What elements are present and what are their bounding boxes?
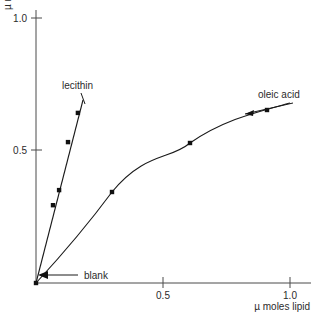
oleic-acid-annotation-label: oleic acid bbox=[258, 89, 300, 100]
y-tick-label-0.5: 0.5 bbox=[13, 145, 27, 156]
oleic-acid-point-2 bbox=[188, 141, 192, 145]
lecithin-leader-line bbox=[81, 93, 85, 104]
x-axis-title: µ moles lipid bbox=[254, 301, 310, 312]
lecithin-annotation-label: lecithin bbox=[62, 80, 93, 91]
y-axis-title: µ moles Mn bound bbox=[2, 0, 13, 10]
lecithin-point-2 bbox=[57, 188, 61, 192]
lecithin-point-3 bbox=[66, 140, 70, 144]
y-tick-label-1.0: 1.0 bbox=[13, 13, 27, 24]
oleic-acid-point-1 bbox=[110, 190, 114, 194]
x-tick-label-0.5: 0.5 bbox=[156, 290, 170, 301]
chart-figure: 1.0 0.5 0.5 1.0 µ moles lipid µ moles Mn… bbox=[0, 0, 316, 313]
lecithin-point-4 bbox=[76, 111, 80, 115]
lecithin-point-1 bbox=[51, 203, 55, 207]
oleic-acid-markers bbox=[110, 108, 269, 194]
plot-area: 1.0 0.5 0.5 1.0 µ moles lipid µ moles Mn… bbox=[0, 0, 316, 313]
oleic-acid-curve bbox=[36, 103, 290, 283]
x-tick-label-1.0: 1.0 bbox=[283, 290, 297, 301]
blank-annotation-label: blank bbox=[84, 270, 109, 281]
blank-arrowhead bbox=[38, 271, 48, 279]
